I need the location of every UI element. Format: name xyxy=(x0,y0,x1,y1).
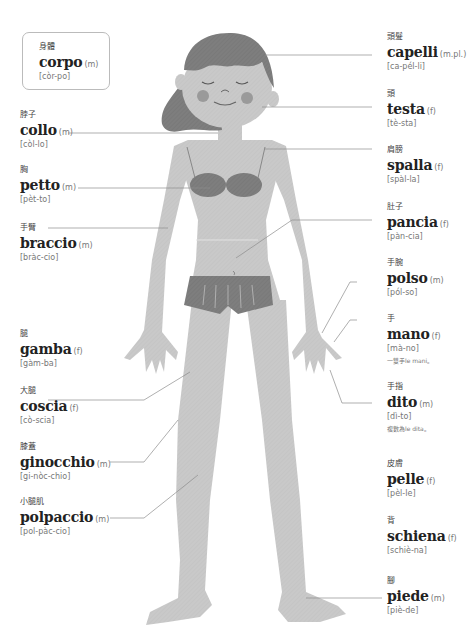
label-gender: (m) xyxy=(430,276,444,285)
label-zh: 身體 xyxy=(39,43,98,51)
label-word: piede xyxy=(387,588,429,604)
label-gender: (f) xyxy=(432,332,441,341)
label-pronunciation: [piè-de] xyxy=(387,607,445,615)
label-zh: 小腿肌 xyxy=(20,498,109,506)
label-zh: 肩膀 xyxy=(387,146,443,154)
label-piede: 腳 piede(m) [piè-de] xyxy=(387,577,445,615)
label-gender: (f) xyxy=(74,347,83,356)
label-polpaccio: 小腿肌 polpaccio(m) [pol-pàc-cio] xyxy=(20,498,109,536)
label-pronunciation: [tè-sta] xyxy=(387,120,436,128)
label-zh: 腿 xyxy=(20,330,83,338)
label-word: pancia xyxy=(387,214,438,230)
label-pronunciation: [pèt-to] xyxy=(20,196,76,204)
label-word: petto xyxy=(20,177,60,193)
label-pronunciation: [pól-so] xyxy=(387,289,444,297)
label-pronunciation: [gi-nòc-chio] xyxy=(20,473,111,481)
label-pancia: 肚子 pancia(f) [pàn-cia] xyxy=(387,203,449,241)
label-coscia: 大腿 coscia(f) [cò-scia] xyxy=(20,387,79,425)
label-pronunciation: [còl-lo] xyxy=(20,141,73,149)
label-word: dito xyxy=(387,394,417,410)
label-mano: 手 mano(f) [mà-no] 一雙手le mani。 xyxy=(387,315,441,364)
label-gender: (m) xyxy=(95,515,109,524)
label-braccio: 手臂 braccio(m) [bràc-cio] xyxy=(20,224,93,262)
label-note: 一雙手le mani。 xyxy=(387,358,441,364)
label-spalla: 肩膀 spalla(f) [spàl-la] xyxy=(387,146,443,184)
label-gender: (m) xyxy=(431,594,445,603)
label-pronunciation: [ca-pél-li] xyxy=(387,63,466,71)
label-word: gamba xyxy=(20,341,72,357)
label-word: polso xyxy=(387,270,428,286)
label-word: capelli xyxy=(387,44,438,60)
label-pronunciation: [pèl-le] xyxy=(387,490,435,498)
label-word: testa xyxy=(387,101,425,117)
label-zh: 胸 xyxy=(20,166,76,174)
label-zh: 腳 xyxy=(387,577,445,585)
label-gender: (f) xyxy=(440,220,449,229)
label-zh: 大腿 xyxy=(20,387,79,395)
label-zh: 手腕 xyxy=(387,259,444,267)
label-word: schiena xyxy=(387,528,446,544)
label-pelle: 皮膚 pelle(f) [pèl-le] xyxy=(387,460,435,498)
label-zh: 肚子 xyxy=(387,203,449,211)
label-pronunciation: [cò-scia] xyxy=(20,417,79,425)
label-gender: (m) xyxy=(84,60,98,69)
label-word: mano xyxy=(387,326,430,342)
label-pronunciation: [pàn-cia] xyxy=(387,233,449,241)
label-word: pelle xyxy=(387,471,424,487)
label-petto: 胸 petto(m) [pèt-to] xyxy=(20,166,76,204)
label-gender: (m) xyxy=(59,128,73,137)
label-pronunciation: [mà-no] xyxy=(387,345,441,353)
label-gender: (m.pl.) xyxy=(440,50,466,59)
label-gender: (f) xyxy=(434,163,443,172)
label-zh: 手臂 xyxy=(20,224,93,232)
label-word: collo xyxy=(20,122,57,138)
label-gender: (m) xyxy=(62,183,76,192)
label-zh: 手指 xyxy=(387,383,433,391)
label-pronunciation: [bràc-cio] xyxy=(20,254,93,262)
label-dito: 手指 dito(m) [dì-to] 複數為le dita。 xyxy=(387,383,433,432)
label-zh: 膝蓋 xyxy=(20,443,111,451)
label-zh: 頭髮 xyxy=(387,33,466,41)
label-schiena: 背 schiena(f) [schiè-na] xyxy=(387,517,457,555)
label-gender: (f) xyxy=(448,534,457,543)
label-zh: 背 xyxy=(387,517,457,525)
label-pronunciation: [dì-to] xyxy=(387,413,433,421)
label-collo: 脖子 collo(m) [còl-lo] xyxy=(20,111,73,149)
label-word: spalla xyxy=(387,157,432,173)
label-capelli: 頭髮 capelli(m.pl.) [ca-pél-li] xyxy=(387,33,466,71)
label-zh: 頭 xyxy=(387,90,436,98)
label-zh: 脖子 xyxy=(20,111,73,119)
label-pronunciation: [còr-po] xyxy=(39,73,98,81)
label-zh: 皮膚 xyxy=(387,460,435,468)
label-gender: (f) xyxy=(426,477,435,486)
label-testa: 頭 testa(f) [tè-sta] xyxy=(387,90,436,128)
label-gender: (f) xyxy=(69,404,78,413)
label-ginocchio: 膝蓋 ginocchio(m) [gi-nòc-chio] xyxy=(20,443,111,481)
label-gender: (m) xyxy=(419,400,433,409)
label-word: coscia xyxy=(20,398,67,414)
label-note: 複數為le dita。 xyxy=(387,426,433,432)
label-gamba: 腿 gamba(f) [gàm-ba] xyxy=(20,330,83,368)
label-zh: 手 xyxy=(387,315,441,323)
label-pronunciation: [schiè-na] xyxy=(387,547,457,555)
label-corpo: 身體 corpo(m) [còr-po] xyxy=(39,43,98,81)
label-polso: 手腕 polso(m) [pól-so] xyxy=(387,259,444,297)
label-word: polpaccio xyxy=(20,509,93,525)
label-word: corpo xyxy=(39,54,82,70)
label-word: braccio xyxy=(20,235,77,251)
label-pronunciation: [spàl-la] xyxy=(387,176,443,184)
label-pronunciation: [pol-pàc-cio] xyxy=(20,528,109,536)
figure-body xyxy=(124,33,346,625)
label-gender: (f) xyxy=(427,107,436,116)
label-gender: (m) xyxy=(79,241,93,250)
label-word: ginocchio xyxy=(20,454,95,470)
label-gender: (m) xyxy=(97,460,111,469)
label-pronunciation: [gàm-ba] xyxy=(20,360,83,368)
